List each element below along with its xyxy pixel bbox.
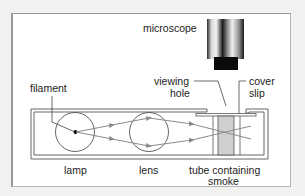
viewing-hole-label-line1: viewing bbox=[154, 75, 189, 87]
microscope-label: microscope bbox=[143, 22, 197, 34]
cover-slip-label-line1: cover bbox=[249, 75, 275, 87]
tube-label-line2: smoke bbox=[208, 175, 239, 187]
lamp-label: lamp bbox=[64, 164, 87, 176]
lens-label: lens bbox=[139, 164, 158, 176]
viewing-hole-leader bbox=[194, 81, 226, 106]
microscope-icon bbox=[207, 19, 244, 70]
filament-label: filament bbox=[30, 82, 67, 94]
brownian-motion-apparatus-diagram: microscope filament viewing hole bbox=[0, 0, 305, 196]
cover-slip-leader bbox=[239, 81, 246, 113]
filament-leader bbox=[52, 96, 75, 132]
cover-slip-label-line2: slip bbox=[249, 87, 265, 99]
viewing-hole-label-line2: hole bbox=[170, 87, 190, 99]
